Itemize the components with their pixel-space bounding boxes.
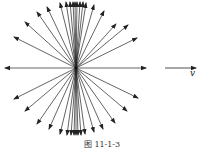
field-line — [37, 12, 76, 68]
field-line — [76, 68, 138, 98]
field-line — [14, 37, 76, 68]
field-line — [25, 22, 76, 68]
charge-point — [74, 66, 77, 69]
velocity-label: v — [190, 68, 195, 78]
field-lines-diagram — [0, 0, 204, 152]
figure-caption: 图 11-1-3 — [0, 138, 204, 149]
